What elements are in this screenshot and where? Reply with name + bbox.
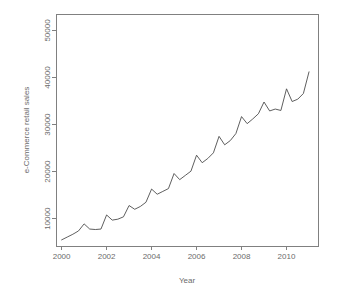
- y-tick-label: 50000: [43, 19, 52, 42]
- plot-frame: [56, 14, 318, 246]
- series-line-ecommerce: [62, 72, 309, 240]
- x-tick-label: 2006: [188, 252, 206, 261]
- y-tick-label: 10000: [43, 207, 52, 230]
- x-tick-label: 2004: [143, 252, 161, 261]
- x-tick-label: 2000: [53, 252, 71, 261]
- ecommerce-retail-sales-line-chart: 1000020000300004000050000 20002002200420…: [0, 0, 338, 297]
- y-axis: 1000020000300004000050000: [43, 19, 56, 230]
- y-tick-label: 30000: [43, 113, 52, 136]
- y-tick-label: 20000: [43, 160, 52, 183]
- x-axis-title: Year: [179, 276, 196, 285]
- y-axis-title: e-Commerce retail sales: [22, 87, 31, 174]
- x-tick-label: 2010: [278, 252, 296, 261]
- chart-canvas: 1000020000300004000050000 20002002200420…: [0, 0, 338, 297]
- y-tick-label: 40000: [43, 66, 52, 89]
- x-tick-label: 2002: [98, 252, 116, 261]
- x-axis: 200020022004200620082010: [53, 246, 296, 261]
- x-tick-label: 2008: [233, 252, 251, 261]
- data-series: [62, 72, 309, 240]
